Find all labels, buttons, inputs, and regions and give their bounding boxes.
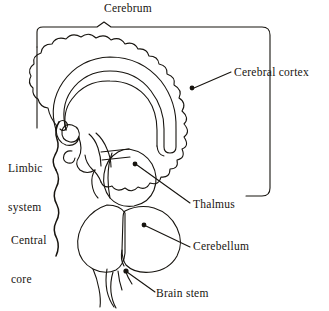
central-core-brace xyxy=(54,170,59,256)
cerebellum xyxy=(121,207,180,273)
label-central-core-line1: Central xyxy=(11,234,47,247)
thalmus-leader xyxy=(133,162,190,203)
label-central-core-line2: core xyxy=(11,273,47,286)
corpus-callosum xyxy=(53,57,176,153)
thalamus xyxy=(104,149,156,206)
brain-diagram-canvas xyxy=(0,0,329,311)
brain-diagram-figure: Cerebrum Cerebral cortex Limbic system C… xyxy=(0,0,329,311)
cerebellum-leader xyxy=(142,223,190,247)
label-cerebrum: Cerebrum xyxy=(104,2,152,15)
cerebral-cortex-leader xyxy=(190,72,231,90)
label-cerebellum: Cerebellum xyxy=(193,240,249,253)
label-thalmus: Thalmus xyxy=(193,198,235,211)
label-brain-stem: Brain stem xyxy=(156,287,209,300)
label-limbic-system-line1: Limbic xyxy=(8,162,43,175)
label-cerebral-cortex: Cerebral cortex xyxy=(234,66,309,79)
pons xyxy=(78,205,125,272)
brain-stem xyxy=(93,269,132,308)
label-central-core: Central core xyxy=(11,208,47,311)
